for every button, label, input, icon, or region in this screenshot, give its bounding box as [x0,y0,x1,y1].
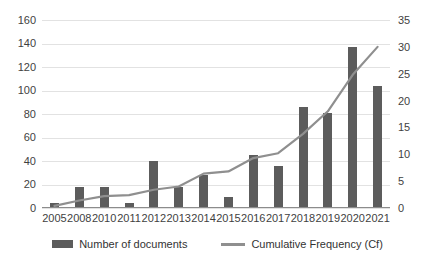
y-left-tick: 100 [2,85,36,96]
y-right-tick: 20 [398,96,428,107]
legend-item-line[interactable]: Cumulative Frequency (Cf) [221,238,382,250]
plot-area [42,20,390,208]
line-series [42,20,390,208]
x-axis-tick: 2019 [315,212,340,224]
y-right-tick: 25 [398,69,428,80]
x-axis-tick: 2011 [117,212,142,224]
x-axis-tick: 2013 [166,212,191,224]
y-right-tick: 0 [398,203,428,214]
y-left-tick: 160 [2,15,36,26]
y-left-tick: 20 [2,179,36,190]
y-left-tick: 140 [2,38,36,49]
x-axis-tick: 2016 [241,212,266,224]
y-right-tick: 15 [398,122,428,133]
y-left-tick: 0 [2,203,36,214]
bar-swatch-icon [52,240,73,248]
x-axis-tick: 2012 [141,212,166,224]
y-right-tick: 5 [398,176,428,187]
chart-container: 160 140 120 100 80 60 40 20 0 35 30 25 2… [0,0,435,266]
y-right-tick: 30 [398,42,428,53]
line-swatch-icon [221,243,245,246]
x-axis-tick: 2014 [191,212,216,224]
gridline [42,208,390,209]
y-right-tick: 35 [398,15,428,26]
x-axis-tick: 2008 [67,212,92,224]
legend-item-bar[interactable]: Number of documents [52,238,187,250]
x-axis-tick: 2017 [266,212,291,224]
x-axis-tick: 2010 [92,212,117,224]
x-axis-line [42,207,390,208]
legend-label-line: Cumulative Frequency (Cf) [251,238,382,250]
x-axis-tick: 2021 [365,212,390,224]
y-right-tick: 10 [398,149,428,160]
legend-label-bar: Number of documents [79,238,187,250]
x-axis-tick: 2018 [291,212,316,224]
chart-legend: Number of documents Cumulative Frequency… [0,238,435,250]
x-axis-tick: 2015 [216,212,241,224]
y-left-tick: 40 [2,156,36,167]
y-left-tick: 60 [2,132,36,143]
x-axis-tick: 2020 [340,212,365,224]
y-left-tick: 80 [2,109,36,120]
y-left-tick: 120 [2,62,36,73]
x-axis-tick: 2005 [42,212,67,224]
